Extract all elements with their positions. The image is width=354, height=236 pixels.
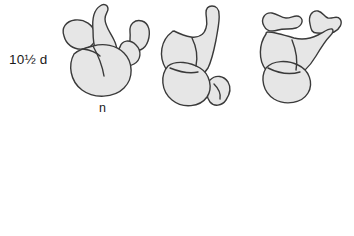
specimen-10-5d-view-3 <box>252 2 352 114</box>
specimen-10-5d-view-2-drawing <box>148 2 260 117</box>
specimen-10-5d-view-2 <box>148 2 260 117</box>
embryo-development-figure: 10½ d n <box>0 0 354 236</box>
specimen-10-5d-view-3-drawing <box>252 2 352 114</box>
stage-row-10-5d: 10½ d n <box>0 0 354 128</box>
stage-row-9-5d: 9½ d n <box>0 128 354 236</box>
stage-label-10-5d: 10½ d <box>9 52 48 67</box>
